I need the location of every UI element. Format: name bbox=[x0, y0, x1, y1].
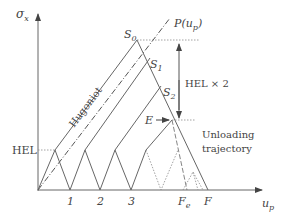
hel-x2-label: HEL × 2 bbox=[185, 78, 229, 89]
fe-label: Fe bbox=[177, 195, 191, 210]
x-axis-label: up bbox=[262, 197, 274, 212]
y-axis-label: σx bbox=[16, 7, 29, 23]
diagram-canvas: σx up P(up) Hugoniot HEL S0 S1 S2 E bbox=[0, 0, 289, 217]
tick-3-label: 3 bbox=[128, 195, 135, 208]
f-label: F bbox=[203, 195, 212, 208]
tick-2-label: 2 bbox=[96, 195, 104, 208]
dotted-small-zigzag bbox=[183, 172, 203, 190]
tick-1-label: 1 bbox=[67, 195, 74, 208]
s2-label: S2 bbox=[163, 86, 176, 101]
e-label: E bbox=[144, 114, 153, 127]
unloading-label-line2: trajectory bbox=[202, 143, 252, 154]
hugoniot-label: Hugoniot bbox=[67, 85, 104, 129]
hel-label: HEL bbox=[12, 144, 38, 157]
dotted-small-drop bbox=[193, 172, 198, 190]
dotted-zigzag bbox=[146, 150, 178, 190]
unloading-label-line1: Unloading bbox=[202, 129, 255, 140]
p-up-label: P(up) bbox=[173, 17, 202, 32]
s0-label: S0 bbox=[124, 28, 137, 43]
s1-label: S1 bbox=[150, 58, 163, 73]
reload-path-2 bbox=[85, 86, 161, 190]
reload-path-3 bbox=[115, 120, 172, 190]
p-up-curve bbox=[38, 18, 170, 190]
